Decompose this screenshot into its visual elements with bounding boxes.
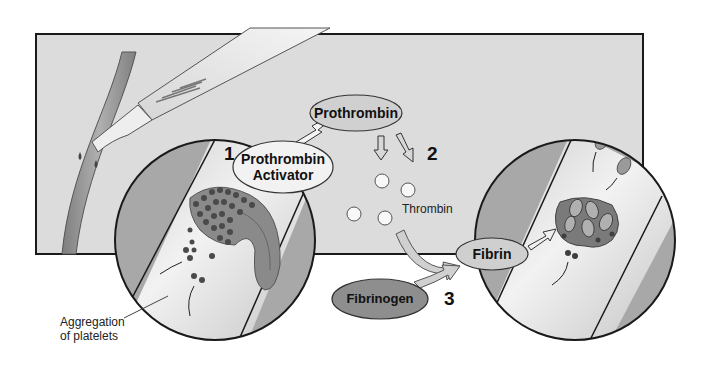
fibrinogen-label: Fibrinogen [332,291,428,307]
fibrin-label: Fibrin [456,246,528,262]
step-number-3: 3 [444,288,455,310]
thrombin-label: Thrombin [402,202,453,216]
clotting-diagram [0,0,710,365]
activator-line-1: Prothrombin [233,151,333,167]
aggregation-label: Aggregation of platelets [60,315,125,343]
prothrombin-label: Prothrombin [310,105,402,121]
prothrombin-activator-label: Prothrombin Activator [233,151,333,183]
aggregation-line-2: of platelets [60,329,125,343]
step-number-2: 2 [427,143,438,165]
aggregation-line-1: Aggregation [60,315,125,329]
activator-line-2: Activator [233,167,333,183]
